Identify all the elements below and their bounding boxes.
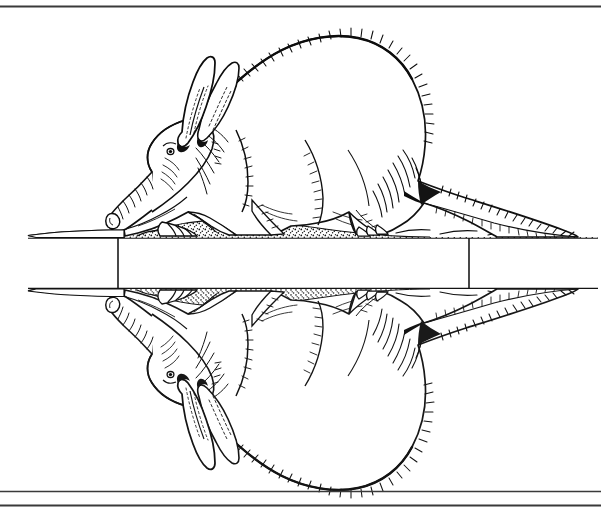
- shoreline-wedge-bottom: [28, 289, 124, 297]
- aardvark-figure: [28, 28, 598, 238]
- reflected-aardvark-body: [106, 288, 578, 498]
- illustration-page: Aardvark (Orycteropus afer) standing on …: [0, 0, 601, 523]
- aardvark-body: [106, 28, 578, 238]
- aardvark-reflection: [28, 288, 598, 498]
- aardvark-illustration: [0, 0, 601, 523]
- mask-band: [0, 238, 601, 289]
- shoreline-wedge-top: [28, 230, 124, 238]
